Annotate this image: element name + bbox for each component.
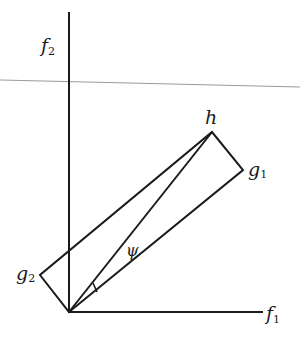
g2-label: g2 bbox=[16, 262, 35, 285]
guide-line bbox=[0, 80, 300, 87]
f1-label: f1 bbox=[264, 302, 280, 326]
psi-angle-label: ψ bbox=[126, 241, 139, 260]
g1-label: g1 bbox=[248, 158, 267, 181]
h-vector bbox=[69, 132, 212, 312]
f2-label: f2 bbox=[39, 34, 55, 58]
h-label: h bbox=[205, 106, 217, 128]
diagram-canvas: f2 f1 h g1 g2 ψ bbox=[0, 0, 300, 345]
